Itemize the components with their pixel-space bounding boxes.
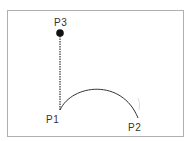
arc-p1-p2 (60, 89, 138, 118)
frame-border (8, 11, 184, 137)
diagram-canvas: P3 P1 P2 (0, 0, 194, 141)
arc-highlight (138, 98, 140, 110)
label-p1: P1 (46, 114, 59, 125)
p3-dot (56, 29, 64, 37)
label-p2: P2 (128, 122, 141, 133)
label-p3: P3 (54, 17, 67, 28)
